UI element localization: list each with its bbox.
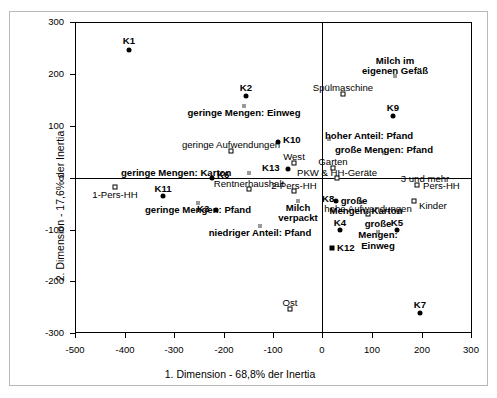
label-verpackt: verpackt <box>278 213 317 224</box>
label-grosse-karton-2: Mengen: Karton <box>329 206 402 217</box>
x-tick-200 <box>422 333 423 338</box>
point-k1[interactable] <box>127 48 132 53</box>
label-k7: K7 <box>414 300 426 311</box>
y-axis-title: 2. Dimension - 17,6% der Inertia <box>54 56 66 356</box>
label-2-pers-hh: 2-Pers-HH <box>271 181 316 192</box>
label-k9: K9 <box>387 103 399 114</box>
y-tick-neg200 <box>70 281 75 282</box>
label-grosse-einweg-3: Einweg <box>361 241 395 252</box>
y-axis-title-wrapper: 2. Dimension - 17,6% der Inertia <box>22 20 42 340</box>
x-axis-title: 1. Dimension - 68,8% der Inertia <box>75 368 405 380</box>
x-tick-label-0: 0 <box>302 344 342 355</box>
y-tick-300 <box>70 22 75 23</box>
label-ost: Ost <box>283 298 298 309</box>
label-pers-hh: Pers-HH <box>423 181 460 192</box>
label-grosse-einweg-2: Mengen: <box>358 230 397 241</box>
point-kinder[interactable] <box>412 199 417 204</box>
label-niedriger-anteil-pfand: niedriger Anteil: Pfand <box>209 228 312 239</box>
x-tick-label-n200: -200 <box>204 344 244 355</box>
x-tick-neg300 <box>174 333 175 338</box>
x-tick-neg200 <box>224 333 225 338</box>
label-1-pers-hh: 1-Pers-HH <box>92 190 137 201</box>
label-eigenen-gefaess: eigenen Gefäß <box>362 66 428 77</box>
y-tick-200 <box>70 74 75 75</box>
label-geringe-aufwendungen: geringe Aufwendungen <box>182 140 280 151</box>
point-geringe-mengen-karton[interactable] <box>247 171 251 175</box>
x-tick-label-n300: -300 <box>154 344 194 355</box>
label-k1: K1 <box>123 36 135 47</box>
x-tick-label-300: 300 <box>451 344 491 355</box>
x-tick-100 <box>372 333 373 338</box>
label-west: West <box>283 152 305 163</box>
x-tick-neg500 <box>75 333 76 338</box>
x-tick-neg100 <box>273 333 274 338</box>
label-k12: K12 <box>337 243 355 254</box>
x-tick-0 <box>322 333 323 338</box>
label-spuelmaschine: Spülmaschine <box>313 83 373 94</box>
y-tick-0 <box>70 178 75 179</box>
point-k13[interactable] <box>286 167 291 172</box>
point-k2[interactable] <box>244 94 249 99</box>
x-tick-label-n100: -100 <box>253 344 293 355</box>
label-geringe-mengen-einweg: geringe Mengen: Einweg <box>187 108 300 119</box>
point-k7[interactable] <box>418 311 423 316</box>
label-k13: K13 <box>262 163 280 174</box>
y-tick-neg100 <box>70 230 75 231</box>
label-k10: K10 <box>283 135 301 146</box>
label-garten: Garten <box>318 157 347 168</box>
label-pkw-hh-geraete: PKW & HH-Geräte <box>297 168 377 179</box>
x-tick-label-100: 100 <box>352 344 392 355</box>
label-k11: K11 <box>154 184 171 195</box>
screenshot-root: 300 200 100 0 -100 -200 -300 -500 -400 -… <box>0 0 497 398</box>
label-geringe-mengen-karton: geringe Mengen: Karton <box>121 168 231 179</box>
label-grosse-mengen-pfand: große Mengen: Pfand <box>335 145 433 156</box>
x-tick-300 <box>471 333 472 338</box>
label-k2: K2 <box>240 83 252 94</box>
y-tick-100 <box>70 126 75 127</box>
label-k5: K5 <box>391 218 403 229</box>
label-geringe-mengen-pfand: geringe Mengen: Pfand <box>145 205 251 216</box>
x-tick-neg400 <box>125 333 126 338</box>
label-grosse-einweg-1: große <box>365 219 392 230</box>
label-k4: K4 <box>334 218 346 229</box>
x-tick-label-n400: -400 <box>105 344 145 355</box>
label-kinder: Kinder <box>419 201 447 212</box>
label-hoher-anteil-pfand: hoher Anteil: Pfand <box>325 131 413 142</box>
point-k12[interactable] <box>330 246 335 251</box>
point-k9[interactable] <box>391 114 396 119</box>
x-tick-label-200: 200 <box>402 344 442 355</box>
